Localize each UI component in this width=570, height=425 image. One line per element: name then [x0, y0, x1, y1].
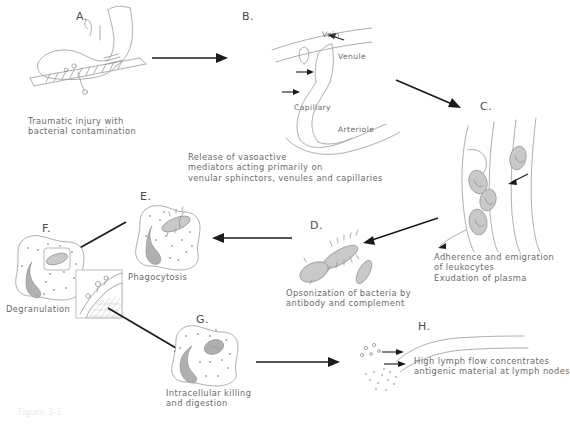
panel-h-caption: High lymph flow concentrates antigenic m… — [414, 356, 570, 377]
figure-caption: Figure 3-1 — [18, 408, 62, 418]
